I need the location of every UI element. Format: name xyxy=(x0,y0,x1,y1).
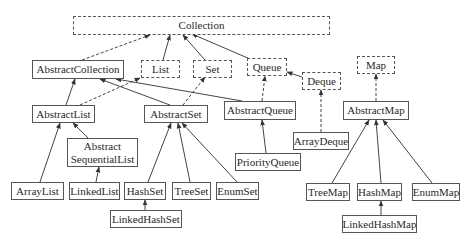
node-label-line1: Abstract xyxy=(84,140,121,153)
node-label: HashMap xyxy=(358,186,401,199)
node-label: Collection xyxy=(179,19,225,32)
node-label: AbstractCollection xyxy=(36,63,119,76)
node-label: ArrayList xyxy=(16,185,59,198)
node-label: Map xyxy=(366,59,386,72)
node-deque: Deque xyxy=(302,72,341,90)
node-label: LinkedList xyxy=(70,185,118,198)
edge-abstractset-abstractcollection xyxy=(100,79,170,105)
node-list: List xyxy=(141,60,180,78)
node-label: LinkedHashSet xyxy=(112,213,180,226)
edge-deque-queue xyxy=(287,72,302,77)
edge-abstractcollection-collection xyxy=(82,35,150,60)
node-label: Queue xyxy=(253,61,282,74)
node-label: Set xyxy=(205,63,219,76)
edge-abstractlist-abstractcollection xyxy=(66,79,75,105)
node-label: PriorityQueue xyxy=(237,156,299,169)
node-label: LinkedHashMap xyxy=(343,218,417,231)
node-label: ArrayDeque xyxy=(294,135,348,148)
node-tree-map: TreeMap xyxy=(306,183,350,201)
node-label: EnumMap xyxy=(413,186,459,199)
node-hash-map: HashMap xyxy=(357,183,402,201)
edge-set-collection xyxy=(183,35,205,60)
node-label: AbstractSet xyxy=(150,108,201,121)
node-abstract-map: AbstractMap xyxy=(343,101,409,120)
edge-enumset-abstractset xyxy=(182,123,237,182)
node-enum-set: EnumSet xyxy=(216,182,259,200)
node-label: AbstractMap xyxy=(347,104,404,117)
edge-hashmap-abstractmap xyxy=(376,120,381,183)
node-array-list: ArrayList xyxy=(11,182,64,200)
edge-treeset-abstractset xyxy=(178,123,190,182)
edge-list-collection xyxy=(163,35,170,60)
node-label: EnumSet xyxy=(217,185,257,198)
node-linked-hash-map: LinkedHashMap xyxy=(342,215,417,233)
node-label: AbstractList xyxy=(36,108,90,121)
node-collection: Collection xyxy=(73,16,330,35)
node-enum-map: EnumMap xyxy=(412,183,460,201)
node-linked-hash-set: LinkedHashSet xyxy=(110,210,182,228)
node-set: Set xyxy=(193,60,232,78)
edge-treemap-abstractmap xyxy=(332,120,369,183)
node-abstract-collection: AbstractCollection xyxy=(32,60,124,79)
edge-priorityqueue-abstractqueue xyxy=(262,120,266,153)
node-abstract-list: AbstractList xyxy=(32,105,95,123)
node-label: List xyxy=(152,63,169,76)
node-hash-set: HashSet xyxy=(124,182,166,200)
edge-arraylist-abstractlist xyxy=(40,123,60,182)
node-label: TreeSet xyxy=(175,185,209,198)
node-label: Deque xyxy=(307,75,336,88)
node-array-deque: ArrayDeque xyxy=(293,132,349,150)
edge-abstractqueue-abstractcollection xyxy=(116,79,242,101)
edge-abstractsequentiallist-abstractlist xyxy=(73,123,88,138)
node-map: Map xyxy=(357,56,395,74)
edge-hashset-abstractset xyxy=(148,123,171,182)
edge-abstractqueue-queue xyxy=(262,76,265,101)
node-priority-queue: PriorityQueue xyxy=(235,153,301,171)
node-abstract-set: AbstractSet xyxy=(144,105,208,123)
node-queue: Queue xyxy=(247,58,287,76)
node-label-line2: SequentialList xyxy=(71,153,135,166)
edge-linkedlist-abstractsequentiallist xyxy=(96,167,99,182)
edge-enummap-abstractmap xyxy=(383,120,432,183)
node-label: AbstractQueue xyxy=(227,104,293,117)
node-abstract-queue: AbstractQueue xyxy=(224,101,296,120)
node-linked-list: LinkedList xyxy=(69,182,120,200)
node-label: HashSet xyxy=(127,185,164,198)
node-tree-set: TreeSet xyxy=(172,182,211,200)
node-abstract-sequential-list: Abstract SequentialList xyxy=(67,138,138,167)
collection-hierarchy-diagram: Collection List Set Queue Deque Map Abst… xyxy=(0,0,472,242)
node-label: TreeMap xyxy=(308,186,348,199)
